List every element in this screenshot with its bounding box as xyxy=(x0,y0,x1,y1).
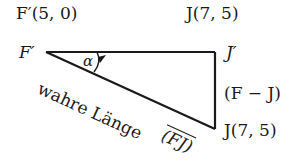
angle-arc-icon xyxy=(94,52,99,72)
label-j-coord-bottom: J(7, 5) xyxy=(224,122,277,139)
label-alpha: α xyxy=(83,54,93,69)
label-j-coord-top: J(7, 5) xyxy=(186,5,239,22)
true-length-diagram: F′(5, 0) J(7, 5) F′ J′ α (F − J) wahre L… xyxy=(0,0,308,166)
label-j-prime: J′ xyxy=(226,44,237,61)
label-f-prime-coord: F′(5, 0) xyxy=(16,5,77,22)
label-f-prime: F′ xyxy=(19,44,35,61)
label-f-minus-j: (F − J) xyxy=(224,85,281,102)
